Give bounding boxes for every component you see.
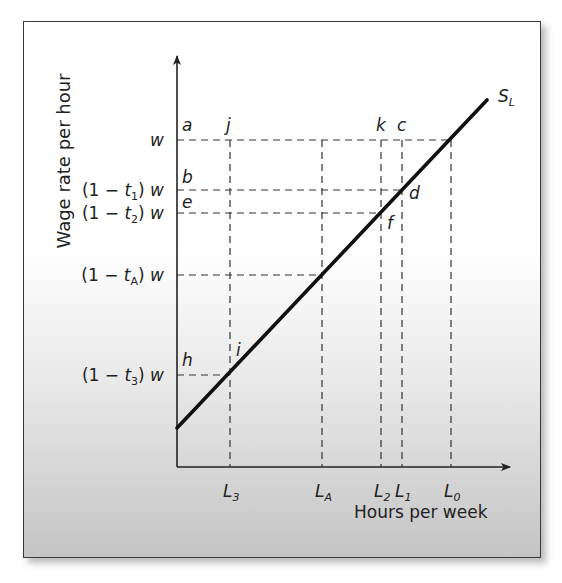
supply-curve-label: SL (498, 86, 515, 109)
labor-supply-diagram: SL w(1 − t1) w(1 − t2) w(1 − tA) w(1 − t… (0, 0, 562, 583)
x-tick-LA: LA (315, 481, 332, 504)
x-axis-title: Hours per week (354, 502, 488, 522)
point-label-f: f (387, 213, 396, 233)
point-label-c: c (397, 115, 407, 135)
y-tick-t3: (1 − t3) w (82, 365, 164, 388)
y-tick-t2: (1 − t2) w (82, 203, 164, 226)
x-tick-L2: L2 (374, 481, 390, 504)
point-label-k: k (376, 115, 387, 135)
y-tick-t1: (1 − t1) w (82, 180, 164, 203)
point-label-a: a (182, 115, 192, 135)
y-axis-tick-labels: w(1 − t1) w(1 − t2) w(1 − tA) w(1 − t3) … (81, 130, 164, 388)
point-label-e: e (182, 192, 192, 212)
x-axis-tick-labels: L3LAL2L1L0 (223, 481, 460, 504)
point-label-h: h (182, 350, 193, 370)
y-tick-w: w (150, 130, 164, 150)
point-label-j: j (224, 115, 231, 135)
point-label-d: d (409, 183, 420, 203)
x-tick-L0: L0 (444, 481, 460, 504)
x-tick-L1: L1 (395, 481, 411, 504)
labor-supply-curve (177, 100, 487, 428)
x-tick-L3: L3 (223, 481, 239, 504)
y-tick-tA: (1 − tA) w (81, 265, 164, 288)
y-axis-title: Wage rate per hour (53, 73, 74, 249)
point-labels: ajkcbedfhi (182, 115, 420, 370)
point-label-i: i (236, 340, 241, 360)
point-label-b: b (182, 167, 193, 187)
